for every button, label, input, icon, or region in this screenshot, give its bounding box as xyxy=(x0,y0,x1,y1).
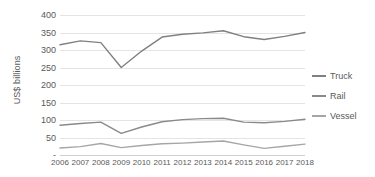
x-axis-tick: 2017 xyxy=(276,158,294,168)
y-axis-tick: 50 xyxy=(24,133,56,142)
x-axis-tick: 2011 xyxy=(153,158,170,168)
series-line-truck xyxy=(60,31,305,68)
x-axis-tick: 2009 xyxy=(112,158,130,168)
y-axis-tick: 300 xyxy=(24,46,56,55)
chart-legend: TruckRailVessel xyxy=(312,66,374,126)
x-axis-tick: 2012 xyxy=(174,158,192,168)
x-axis-tick: 2014 xyxy=(214,158,232,168)
y-axis-title-label: US$ billions xyxy=(12,56,22,105)
y-axis-tick-labels: 40035030025020015010050- xyxy=(24,0,56,177)
legend-item-label: Truck xyxy=(330,71,352,81)
y-axis-tick: 200 xyxy=(24,81,56,90)
y-axis-tick: 400 xyxy=(24,11,56,20)
legend-item-label: Vessel xyxy=(330,111,357,121)
legend-line-icon xyxy=(312,95,326,97)
x-axis-tick-labels: 2006200720082009201020112012201320142015… xyxy=(60,158,305,174)
legend-item-truck[interactable]: Truck xyxy=(312,66,374,86)
legend-line-icon xyxy=(312,75,326,77)
y-axis-tick: 100 xyxy=(24,116,56,125)
x-axis-tick: 2007 xyxy=(72,158,90,168)
series-line-vessel xyxy=(60,141,305,148)
x-axis-tick: 2018 xyxy=(296,158,314,168)
series-layer xyxy=(60,15,305,155)
legend-item-label: Rail xyxy=(330,91,346,101)
x-axis-tick: 2015 xyxy=(235,158,253,168)
x-axis-tick: 2010 xyxy=(133,158,151,168)
x-axis-tick: 2008 xyxy=(92,158,110,168)
x-axis-tick: 2006 xyxy=(51,158,69,168)
legend-line-icon xyxy=(312,115,326,117)
x-axis-tick: 2013 xyxy=(194,158,212,168)
legend-item-vessel[interactable]: Vessel xyxy=(312,106,374,126)
legend-item-rail[interactable]: Rail xyxy=(312,86,374,106)
plot-area xyxy=(60,15,305,155)
y-axis-tick: 150 xyxy=(24,98,56,107)
line-chart: US$ billions 40035030025020015010050- 20… xyxy=(0,0,375,177)
gridline xyxy=(60,155,305,156)
y-axis-tick: 350 xyxy=(24,28,56,37)
series-line-rail xyxy=(60,118,305,133)
x-axis-tick: 2016 xyxy=(255,158,273,168)
y-axis-tick: 250 xyxy=(24,63,56,72)
